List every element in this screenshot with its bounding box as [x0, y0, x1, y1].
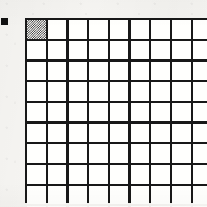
- grid-cell: [172, 82, 191, 101]
- grid-cell: [131, 82, 150, 101]
- grid-cell: [89, 62, 108, 81]
- grid-cell: [27, 62, 46, 81]
- grid-cell: [69, 41, 88, 60]
- grid-cell: [131, 165, 150, 184]
- grid-cell: [89, 20, 108, 39]
- grid-cell: [131, 20, 150, 39]
- grid-cell: [151, 82, 170, 101]
- grid-cell: [151, 206, 170, 207]
- grid-cell: [151, 124, 170, 143]
- grid-cell: [110, 20, 129, 39]
- grid-cell: [110, 82, 129, 101]
- grid-cell: [131, 103, 150, 122]
- grid-cell: [89, 165, 108, 184]
- grid-cell: [193, 41, 207, 60]
- grid-cell: [193, 206, 207, 207]
- grid-cell: [193, 103, 207, 122]
- grid-cell: [193, 20, 207, 39]
- grid-cell: [89, 41, 108, 60]
- grid-cell: [27, 82, 46, 101]
- grid-cell: [89, 124, 108, 143]
- grid-cell: [48, 165, 67, 184]
- grid-cell: [48, 186, 67, 205]
- grid-cell: [69, 124, 88, 143]
- grid-cell: [172, 103, 191, 122]
- grid-cell: [110, 103, 129, 122]
- grid-cell: [27, 144, 46, 163]
- grid-cell: [48, 62, 67, 81]
- grid-cell: [27, 41, 46, 60]
- grid-cell: [110, 124, 129, 143]
- grid-cell: [172, 41, 191, 60]
- grid-cell: [48, 206, 67, 207]
- grid-cell: [48, 20, 67, 39]
- grid-cell: [27, 206, 46, 207]
- grid-cell: [69, 144, 88, 163]
- grid-cell: [193, 186, 207, 205]
- grid-cell: [131, 124, 150, 143]
- grid-cell: [69, 186, 88, 205]
- grid-cell: [131, 186, 150, 205]
- grid-cell: [131, 62, 150, 81]
- grid-cell: [172, 144, 191, 163]
- grid-cell: [89, 82, 108, 101]
- grid-cell: [172, 186, 191, 205]
- grid-cell: [131, 41, 150, 60]
- grid-cell: [48, 144, 67, 163]
- grid-cell: [193, 165, 207, 184]
- grid-cell: [48, 41, 67, 60]
- grid-cell: [69, 20, 88, 39]
- grid-cell: [110, 41, 129, 60]
- grid-cell: [48, 103, 67, 122]
- grid-cell-filled: [27, 20, 46, 39]
- grid-cell: [27, 165, 46, 184]
- grid-cell: [110, 144, 129, 163]
- bullet-marker-icon: [1, 18, 8, 25]
- grid-cell: [151, 103, 170, 122]
- grid-cell: [69, 103, 88, 122]
- grid-cell: [110, 186, 129, 205]
- grid-cell: [110, 165, 129, 184]
- grid-cell: [89, 144, 108, 163]
- grid-cell: [193, 62, 207, 81]
- grid-cell: [27, 124, 46, 143]
- grid-cell: [48, 82, 67, 101]
- grid-cell: [89, 186, 108, 205]
- grid-cell: [69, 62, 88, 81]
- grid-cell: [110, 62, 129, 81]
- grid-cell: [27, 103, 46, 122]
- grid-cell: [151, 165, 170, 184]
- grid-cell: [151, 41, 170, 60]
- grid-cell: [69, 82, 88, 101]
- grid-cell: [69, 206, 88, 207]
- grid-cell: [131, 206, 150, 207]
- ink-layer: [0, 0, 207, 207]
- grid-cell: [151, 144, 170, 163]
- grid-cell: [151, 20, 170, 39]
- grid-cell: [172, 206, 191, 207]
- grid-cell: [193, 124, 207, 143]
- grid-cell: [48, 124, 67, 143]
- grid-cell: [151, 186, 170, 205]
- grid-cell: [69, 165, 88, 184]
- grid-cell: [193, 82, 207, 101]
- grid-cell: [172, 165, 191, 184]
- grid-cell: [110, 206, 129, 207]
- grid-cell: [151, 62, 170, 81]
- grid-cell: [172, 62, 191, 81]
- grid-cell: [89, 206, 108, 207]
- grid-cell: [27, 186, 46, 205]
- grid-cell: [193, 144, 207, 163]
- grid-cell: [172, 124, 191, 143]
- grid-figure: [0, 0, 207, 207]
- grid-cell: [89, 103, 108, 122]
- grid-cell: [172, 20, 191, 39]
- grid-cell: [131, 144, 150, 163]
- grid: [25, 18, 207, 203]
